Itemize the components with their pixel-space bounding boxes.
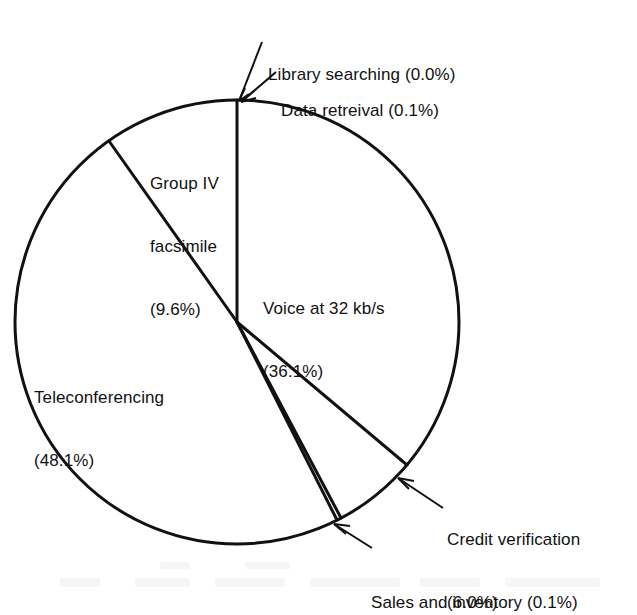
scan-artifact bbox=[160, 562, 190, 569]
pie-label-teleconferencing-value: (48.1%) bbox=[34, 450, 164, 471]
pie-label-sales-inventory: Sales and inventory (0.1%) bbox=[371, 550, 578, 615]
pie-label-voice-line1: Voice at 32 kb/s bbox=[263, 298, 385, 319]
pie-label-credit-line1: Credit verification bbox=[447, 529, 580, 550]
pie-label-voice-value: (36.1%) bbox=[263, 361, 385, 382]
scan-artifact bbox=[135, 578, 190, 587]
pie-label-data-retrieval: Data retreival (0.1%) bbox=[281, 58, 439, 163]
scan-artifact bbox=[215, 578, 285, 587]
pie-label-group-iv-value: (9.6%) bbox=[150, 299, 219, 320]
pie-label-voice: Voice at 32 kb/s (36.1%) bbox=[263, 256, 385, 424]
pie-label-group-iv-line1: Group IV bbox=[150, 173, 219, 194]
pie-label-group-iv-facsimile: Group IV facsimile (9.6%) bbox=[150, 131, 219, 362]
pie-label-group-iv-line2: facsimile bbox=[150, 236, 219, 257]
leader-line-credit-verification bbox=[398, 478, 443, 508]
pie-label-teleconferencing-line1: Teleconferencing bbox=[34, 387, 164, 408]
scan-artifact bbox=[245, 562, 290, 569]
pie-label-data-retrieval-text: Data retreival (0.1%) bbox=[281, 100, 439, 121]
scan-artifact bbox=[60, 578, 100, 587]
pie-label-sales-text: Sales and inventory (0.1%) bbox=[371, 592, 578, 613]
pie-label-teleconferencing: Teleconferencing (48.1%) bbox=[34, 345, 164, 513]
